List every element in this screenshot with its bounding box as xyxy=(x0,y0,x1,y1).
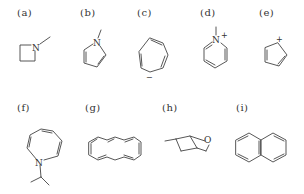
molecule-c-cycloheptatrienyl-anion: − xyxy=(139,38,168,82)
atom-h-oxygen: O xyxy=(204,135,211,145)
atom-f-nitrogen: N xyxy=(35,158,43,168)
molecule-e-cyclopentadienyl-cation: + xyxy=(265,35,287,66)
charge-e-plus: + xyxy=(276,35,283,44)
molecule-b-pyrrole: N xyxy=(84,30,106,67)
charge-d-plus: + xyxy=(221,31,228,40)
structures-canvas: N N − N + + xyxy=(0,0,304,194)
molecule-i-naphthalene xyxy=(236,133,286,162)
charge-c-minus: − xyxy=(146,73,153,82)
molecule-d-pyridinium: N + xyxy=(204,27,228,68)
atom-d-nitrogen: N xyxy=(212,35,220,45)
molecule-g-bicyclic-annulene xyxy=(89,137,141,160)
molecule-a-azetidine: N xyxy=(20,37,50,61)
atom-b-nitrogen: N xyxy=(93,38,101,48)
molecule-h-tetrahydropyran: O xyxy=(165,135,211,151)
molecule-f-azepine: N xyxy=(27,129,62,185)
atom-a-nitrogen: N xyxy=(32,43,40,53)
